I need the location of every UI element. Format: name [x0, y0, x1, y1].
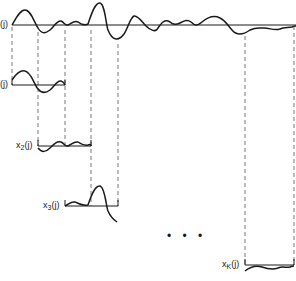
main-waveform	[12, 3, 296, 39]
segment-k-label-tail: (j)	[231, 259, 239, 269]
segment-3-label: x3(j)	[43, 201, 59, 211]
segment-3-label-tail: (j)	[51, 200, 59, 210]
segment-2-label: x2(j)	[16, 141, 32, 151]
ellipsis: • • •	[167, 229, 206, 243]
segment-1	[12, 71, 65, 93]
segment-k	[245, 259, 294, 271]
main-signal-label: (j)	[0, 20, 8, 29]
main-signal-label-text: (j)	[0, 19, 8, 29]
segment-k-label: xK(j)	[222, 260, 239, 270]
segment-1-label: (j)	[0, 80, 8, 90]
segment-1-label-tail: (j)	[0, 79, 8, 89]
segment-2-label-tail: (j)	[24, 140, 32, 150]
segment-3	[65, 186, 118, 222]
segmentation-diagram	[0, 0, 296, 281]
segment-2	[38, 140, 91, 151]
